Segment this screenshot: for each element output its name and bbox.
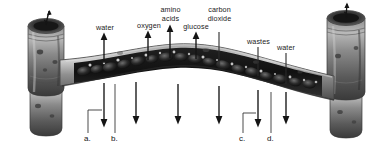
- key-label-b: b.: [111, 134, 118, 143]
- label-wastes-text: wastes: [247, 37, 270, 46]
- oxygen-down-arrow: [133, 82, 140, 125]
- water-down-arrow-a: [101, 83, 108, 128]
- carbon-dioxide-down-arrow: [216, 86, 223, 125]
- key-label-c-text: c.: [239, 134, 245, 143]
- key-label-d-text: d.: [267, 134, 274, 143]
- amino-acids-down-arrow: [175, 84, 182, 125]
- label-water-left-text: water: [96, 23, 114, 32]
- label-water-left: water: [88, 24, 122, 32]
- label-amino-acids: amino acids: [152, 6, 189, 23]
- key-label-a: a.: [84, 134, 91, 143]
- key-a-leader: [88, 110, 102, 133]
- key-label-c: c.: [239, 134, 245, 143]
- key-c-leader: [243, 113, 256, 133]
- water-down-arrow-d: [283, 92, 290, 125]
- label-glucose-text: glucose: [183, 22, 208, 31]
- label-carbon-dioxide: carbon dioxide: [198, 6, 241, 23]
- right-vessel-junction: [327, 3, 365, 139]
- left-vessel-junction: [28, 10, 64, 136]
- label-carbon-dioxide-line2: dioxide: [198, 15, 241, 24]
- key-label-b-text: b.: [111, 134, 118, 143]
- label-oxygen: oxygen: [130, 22, 168, 30]
- downward-exchange-arrows: [101, 82, 290, 128]
- label-water-right: water: [269, 44, 303, 52]
- label-glucose: glucose: [177, 23, 215, 31]
- wastes-down-arrow-c: [255, 90, 262, 128]
- key-label-d: d.: [267, 134, 274, 143]
- key-label-a-text: a.: [84, 134, 91, 143]
- key-leader-lines: [88, 84, 271, 133]
- label-water-right-text: water: [277, 43, 295, 52]
